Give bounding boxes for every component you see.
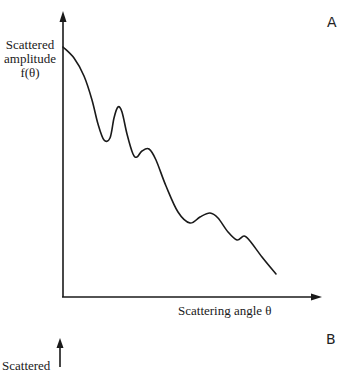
x-axis-arrow-icon bbox=[311, 294, 322, 301]
panel-letter-a: A bbox=[327, 14, 337, 30]
x-axis-label: Scattering angle θ bbox=[178, 303, 272, 319]
panel-b-y-axis-label: Scattered bbox=[2, 359, 50, 373]
panel-b-y-axis-arrow-icon bbox=[57, 338, 64, 348]
y-axis-label-line-3: f(θ) bbox=[0, 66, 60, 80]
y-axis-label-line-1: Scattered bbox=[0, 38, 60, 52]
y-axis-label-line-2: amplitude bbox=[0, 52, 60, 66]
scattered-amplitude-curve bbox=[63, 47, 276, 274]
y-axis-label: Scattered amplitude f(θ) bbox=[0, 38, 60, 80]
panel-letter-b: B bbox=[326, 331, 336, 347]
y-axis-arrow-icon bbox=[60, 11, 67, 22]
